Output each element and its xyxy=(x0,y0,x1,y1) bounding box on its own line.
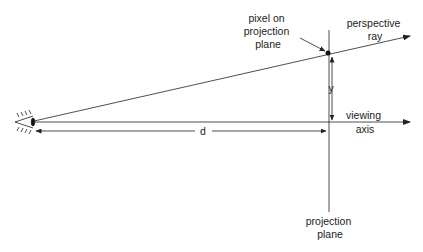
perspective-projection-diagram: pixel on projection plane perspective ra… xyxy=(0,0,423,252)
pixel-leader-arrow xyxy=(300,38,325,51)
y-label: y xyxy=(328,82,334,94)
projection-plane-label: projection plane xyxy=(306,215,354,240)
pixel-on-plane-label: pixel on projection plane xyxy=(244,12,292,50)
pixel-point xyxy=(326,51,331,56)
d-label: d xyxy=(200,125,206,137)
perspective-ray-label: perspective ray xyxy=(347,17,404,42)
eye-icon xyxy=(15,110,35,134)
